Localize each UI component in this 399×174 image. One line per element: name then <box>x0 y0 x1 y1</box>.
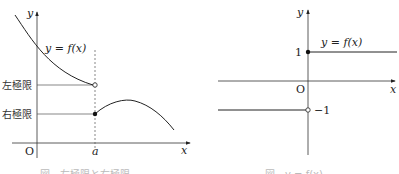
y-axis-label: y <box>26 7 34 20</box>
y-axis-label: y <box>296 6 304 19</box>
right-figure: y x O 1 −1 y = f(x) 図 y = f(x) <box>218 6 397 174</box>
right-branch-curve <box>95 100 174 130</box>
curve-label: y = f(x) <box>44 42 86 55</box>
filled-circle-marker <box>306 50 310 54</box>
x-tick-a: a <box>92 145 99 158</box>
right-caption: 図 y = f(x) <box>265 169 323 174</box>
left-caption: 図 左極限と右極限 <box>40 168 130 174</box>
left-limit-label: 左極限 <box>2 79 32 91</box>
y-tick-minus-1: −1 <box>314 104 330 117</box>
filled-circle-marker <box>93 112 97 116</box>
right-limit-label: 右極限 <box>2 108 32 120</box>
y-tick-1: 1 <box>295 46 302 59</box>
open-circle-marker <box>306 108 310 112</box>
x-axis-label: x <box>390 83 397 96</box>
left-figure: y x O a y = f(x) 左極限 右極限 図 左極限と右極限 <box>2 7 190 174</box>
curve-label: y = f(x) <box>320 36 362 49</box>
x-axis-label: x <box>181 144 188 157</box>
origin-label: O <box>25 145 34 158</box>
origin-label: O <box>296 83 305 96</box>
open-circle-marker <box>93 83 97 87</box>
figures-canvas: y x O a y = f(x) 左極限 右極限 図 左極限と右極限 y x O… <box>0 0 399 174</box>
